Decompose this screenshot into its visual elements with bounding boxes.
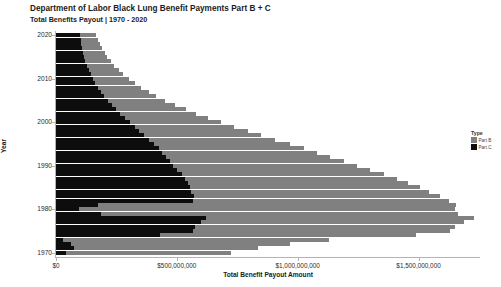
bar-segment-part-b xyxy=(81,38,98,42)
bar-1998 xyxy=(56,129,479,133)
bar-segment-part-c xyxy=(56,68,89,72)
bar-segment-part-c xyxy=(56,146,159,150)
bar-segment-part-c xyxy=(56,33,80,37)
bar-1991 xyxy=(56,159,479,163)
bar-segment-part-b xyxy=(144,133,261,137)
bar-segment-part-b xyxy=(81,42,100,46)
bar-segment-part-b xyxy=(135,125,235,129)
y-tick-mark-2020 xyxy=(52,35,55,36)
bar-segment-part-b xyxy=(182,172,384,176)
bar-segment-part-c xyxy=(56,155,166,159)
bar-1995 xyxy=(56,142,479,146)
bar-1992 xyxy=(56,155,479,159)
bar-segment-part-b xyxy=(104,94,156,98)
bar-1981 xyxy=(56,203,479,207)
bar-1977 xyxy=(56,220,479,224)
bar-segment-part-b xyxy=(112,103,175,107)
bar-segment-part-b xyxy=(95,81,134,85)
x-tick-mark-2 xyxy=(298,258,299,261)
bar-segment-part-c xyxy=(56,138,149,142)
bar-segment-part-b xyxy=(160,233,416,237)
bar-segment-part-c xyxy=(56,185,190,189)
bar-segment-part-b xyxy=(116,107,186,111)
bar-1980 xyxy=(56,207,479,211)
bar-segment-part-c xyxy=(56,242,71,246)
bar-segment-part-b xyxy=(159,146,304,150)
bar-2000 xyxy=(56,120,479,124)
bar-segment-part-b xyxy=(91,72,124,76)
bar-segment-part-c xyxy=(56,229,193,233)
bar-segment-part-b xyxy=(201,220,464,224)
bar-segment-part-b xyxy=(188,181,408,185)
bar-segment-part-c xyxy=(56,190,191,194)
legend-swatch-icon xyxy=(471,137,477,143)
y-axis-ticks: 197019801990200020102020 xyxy=(0,0,52,287)
bar-segment-part-c xyxy=(56,129,139,133)
bar-segment-part-c xyxy=(56,203,98,207)
y-tick-mark-1980 xyxy=(52,209,55,210)
bar-1979 xyxy=(56,212,479,216)
bar-segment-part-c xyxy=(56,64,87,68)
x-axis-title: Total Benefit Payout Amount xyxy=(223,271,313,278)
bar-1987 xyxy=(56,177,479,181)
bar-segment-part-c xyxy=(56,168,177,172)
bar-segment-part-c xyxy=(56,72,91,76)
bar-segment-part-c xyxy=(56,51,83,55)
bar-1985 xyxy=(56,185,479,189)
bar-1972 xyxy=(56,242,479,246)
bar-1994 xyxy=(56,146,479,150)
bar-segment-part-b xyxy=(82,46,102,50)
y-tick-label-1980: 1980 xyxy=(4,205,52,212)
bar-segment-part-b xyxy=(71,242,291,246)
bar-segment-part-c xyxy=(56,212,101,216)
bar-2020 xyxy=(56,33,479,37)
bar-segment-part-c xyxy=(56,216,206,220)
x-tick-label-1: $500,000,000 xyxy=(157,262,196,269)
bar-segment-part-b xyxy=(74,246,258,250)
bar-segment-part-c xyxy=(56,125,135,129)
bar-segment-part-b xyxy=(166,155,330,159)
y-tick-label-2000: 2000 xyxy=(4,118,52,125)
bar-1989 xyxy=(56,168,479,172)
bar-segment-part-c xyxy=(56,116,125,120)
y-tick-label-1990: 1990 xyxy=(4,162,52,169)
bar-1993 xyxy=(56,151,479,155)
bar-segment-part-c xyxy=(56,199,193,203)
bar-1970 xyxy=(56,251,479,255)
bar-segment-part-b xyxy=(120,112,196,116)
bar-1990 xyxy=(56,164,479,168)
bar-segment-part-b xyxy=(130,120,221,124)
plot-area xyxy=(56,31,479,257)
bar-segment-part-c xyxy=(56,81,95,85)
bar-segment-part-b xyxy=(139,129,247,133)
y-tick-mark-2010 xyxy=(52,79,55,80)
bar-1986 xyxy=(56,181,479,185)
legend-label: Part C xyxy=(479,145,492,150)
bar-segment-part-b xyxy=(206,216,474,220)
bar-segment-part-b xyxy=(190,185,420,189)
bar-segment-part-c xyxy=(56,159,170,163)
bar-segment-part-b xyxy=(80,33,96,37)
bar-segment-part-c xyxy=(56,172,182,176)
bar-segment-part-b xyxy=(87,64,115,68)
bar-2011 xyxy=(56,72,479,76)
y-tick-mark-1990 xyxy=(52,166,55,167)
legend-item-part-c[interactable]: Part C xyxy=(471,144,501,150)
bar-segment-part-b xyxy=(125,116,208,120)
bar-2016 xyxy=(56,51,479,55)
bar-segment-part-b xyxy=(173,164,357,168)
legend-item-part-b[interactable]: Part B xyxy=(471,137,501,143)
legend-swatch-icon xyxy=(471,144,477,150)
bar-segment-part-b xyxy=(63,238,329,242)
bar-segment-part-b xyxy=(98,203,456,207)
bar-segment-part-c xyxy=(56,55,84,59)
bar-2017 xyxy=(56,46,479,50)
bar-1996 xyxy=(56,138,479,142)
bar-2013 xyxy=(56,64,479,68)
y-tick-label-1970: 1970 xyxy=(4,249,52,256)
bar-segment-part-c xyxy=(56,77,93,81)
bar-2018 xyxy=(56,42,479,46)
bar-segment-part-c xyxy=(56,112,120,116)
bar-2004 xyxy=(56,103,479,107)
bar-segment-part-c xyxy=(56,181,188,185)
